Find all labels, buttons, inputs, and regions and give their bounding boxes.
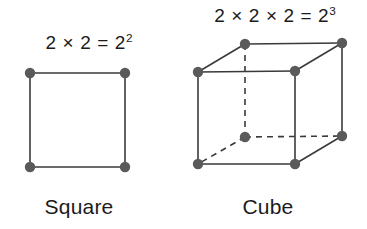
square-vertex-top-left xyxy=(25,68,35,78)
cube-vertex-back-top-left xyxy=(240,39,250,49)
square-vertex-top-right xyxy=(120,68,130,78)
cube-hidden-edge-depth xyxy=(198,137,245,164)
cube-vertex-front-top-left xyxy=(193,67,203,77)
cube-formula-base: 2 × 2 × 2 = 2 xyxy=(214,5,329,26)
cube-caption: Cube xyxy=(242,196,293,217)
cube-edge-top-front xyxy=(198,71,295,72)
cube-vertex-back-top-right xyxy=(337,38,347,48)
cube-edge-top-back xyxy=(245,43,342,44)
cube-formula-exponent: 3 xyxy=(329,4,336,17)
square-edges xyxy=(30,73,125,167)
square-formula-exponent: 2 xyxy=(126,31,133,44)
cube-vertex-back-bottom-right xyxy=(337,131,347,141)
cube-vertex-front-top-right xyxy=(290,66,300,76)
cube-edge-top-left-depth xyxy=(198,44,245,72)
figure-root: 2 × 2 = 22 2 × 2 × 2 = 23 Square Cube xyxy=(0,0,367,229)
square-formula: 2 × 2 = 22 xyxy=(46,33,133,52)
square-vertex-bottom-left xyxy=(25,162,35,172)
square-figure xyxy=(25,68,130,172)
square-vertices xyxy=(25,68,130,172)
square-vertex-bottom-right xyxy=(120,162,130,172)
cube-formula: 2 × 2 × 2 = 23 xyxy=(214,6,336,25)
cube-vertex-front-bottom-right xyxy=(290,159,300,169)
cube-edge-bottom-right-depth xyxy=(295,136,342,164)
cube-hidden-edges xyxy=(198,44,342,164)
cube-vertex-back-bottom-left xyxy=(240,132,250,142)
square-formula-base: 2 × 2 = 2 xyxy=(46,32,126,53)
cube-edge-top-right-depth xyxy=(295,43,342,71)
cube-vertex-front-bottom-left xyxy=(193,159,203,169)
cube-hidden-edge-horizontal xyxy=(245,136,342,137)
cube-visible-edges xyxy=(198,43,342,164)
square-caption: Square xyxy=(45,196,114,217)
cube-vertices xyxy=(193,38,347,169)
cube-figure xyxy=(193,38,347,169)
